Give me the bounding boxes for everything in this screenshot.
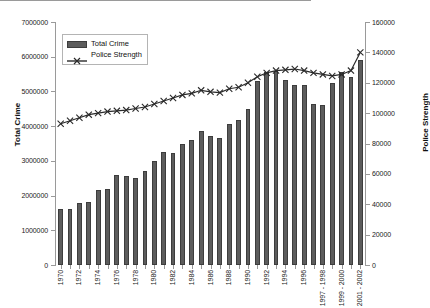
x-marker-icon xyxy=(161,98,167,104)
x-axis-tick-label: 1992 xyxy=(263,270,270,285)
x-axis-tick-label: 1986 xyxy=(207,270,214,285)
x-axis-tick xyxy=(61,265,62,269)
x-axis-tick xyxy=(117,265,118,269)
x-axis-tick xyxy=(164,265,165,269)
right-axis-tick-label: 60000 xyxy=(372,170,391,177)
right-axis-tick-label: 160000 xyxy=(372,19,395,26)
x-axis-tick xyxy=(285,265,286,269)
x-axis-tick xyxy=(126,265,127,269)
x-axis-tick xyxy=(304,265,305,269)
chart-legend: Total Crime Police Strength xyxy=(62,34,148,65)
x-axis-tick xyxy=(229,265,230,269)
bottom-axis-line xyxy=(0,0,311,1)
x-axis-tick xyxy=(276,265,277,269)
x-axis-tick-label: 1976 xyxy=(113,270,120,285)
x-axis-tick xyxy=(342,265,343,269)
x-axis-tick-label: 1999 - 2000 xyxy=(338,270,345,306)
x-axis-tick xyxy=(192,265,193,269)
x-axis-tick xyxy=(145,265,146,269)
right-axis-tick xyxy=(365,174,370,175)
x-axis-tick xyxy=(323,265,324,269)
x-axis-tick-label: 1970 xyxy=(57,270,64,285)
right-axis-tick xyxy=(365,113,370,114)
x-axis-tick xyxy=(201,265,202,269)
x-axis-tick xyxy=(248,265,249,269)
left-axis-tick-label: 2000000 xyxy=(0,192,48,199)
x-marker-icon xyxy=(151,101,157,107)
x-marker-icon xyxy=(245,80,251,86)
x-marker-icon xyxy=(348,68,354,74)
x-axis-tick xyxy=(220,265,221,269)
x-axis-tick xyxy=(314,265,315,269)
x-axis-tick-label: 1988 xyxy=(225,270,232,285)
x-axis-tick-label: 1984 xyxy=(188,270,195,285)
right-axis-tick xyxy=(365,83,370,84)
x-axis-tick-label: 1974 xyxy=(94,270,101,285)
right-axis-tick xyxy=(365,52,370,53)
right-axis-tick-label: 120000 xyxy=(372,79,395,86)
right-axis-tick-label: 140000 xyxy=(372,49,395,56)
right-axis-tick-label: 80000 xyxy=(372,140,391,147)
x-axis-tick xyxy=(239,265,240,269)
left-axis-tick-label: 4000000 xyxy=(0,123,48,130)
x-axis-tick-label: 1990 xyxy=(244,270,251,285)
x-axis-tick-label: 1980 xyxy=(150,270,157,285)
legend-item-total-crime: Total Crime xyxy=(67,39,142,49)
x-axis-tick xyxy=(332,265,333,269)
left-axis-tick-label: 3000000 xyxy=(0,157,48,164)
x-axis-tick-label: 1997 - 1998 xyxy=(319,270,326,306)
x-axis-tick xyxy=(351,265,352,269)
x-marker-icon xyxy=(170,95,176,101)
right-axis-tick xyxy=(365,204,370,205)
x-marker-icon xyxy=(58,121,64,127)
x-axis-tick xyxy=(211,265,212,269)
right-axis-title: Police Strength xyxy=(421,73,430,173)
left-axis-tick-label: 0 xyxy=(0,262,48,269)
x-axis-tick-label: 1994 xyxy=(281,270,288,285)
right-axis-tick-label: 100000 xyxy=(372,110,395,117)
right-axis-tick xyxy=(365,144,370,145)
x-axis-tick xyxy=(295,265,296,269)
legend-label-police-strength: Police Strength xyxy=(91,51,142,59)
x-axis-tick-label: 2001 - 2002 xyxy=(356,270,363,306)
x-axis-tick xyxy=(257,265,258,269)
line-x-marker-icon xyxy=(67,51,87,59)
x-axis-tick xyxy=(154,265,155,269)
right-axis-tick xyxy=(365,22,370,23)
left-axis-tick-label: 1000000 xyxy=(0,227,48,234)
x-axis-tick xyxy=(173,265,174,269)
x-axis-tick xyxy=(98,265,99,269)
x-marker-icon xyxy=(254,74,260,80)
legend-item-police-strength: Police Strength xyxy=(67,50,142,60)
left-axis-tick-label: 5000000 xyxy=(0,88,48,95)
right-axis-tick-label: 40000 xyxy=(372,201,391,208)
x-axis-tick xyxy=(89,265,90,269)
x-axis-tick-label: 1996 xyxy=(300,270,307,285)
x-axis-tick xyxy=(79,265,80,269)
left-axis-tick xyxy=(51,265,56,266)
right-axis-tick xyxy=(365,235,370,236)
x-axis-tick-label: 1972 xyxy=(75,270,82,285)
bar-swatch-icon xyxy=(67,41,87,48)
x-axis-tick xyxy=(136,265,137,269)
x-marker-icon xyxy=(67,118,73,124)
x-marker-icon xyxy=(357,49,363,55)
x-axis-tick xyxy=(360,265,361,269)
x-axis-tick xyxy=(108,265,109,269)
x-axis-tick-label: 1982 xyxy=(169,270,176,285)
right-axis-tick-label: 20000 xyxy=(372,231,391,238)
x-axis-tick xyxy=(267,265,268,269)
right-axis-tick-label: 0 xyxy=(372,262,376,269)
x-axis-tick xyxy=(70,265,71,269)
left-axis-tick-label: 7000000 xyxy=(0,19,48,26)
x-axis-tick xyxy=(182,265,183,269)
left-axis-tick-label: 6000000 xyxy=(0,53,48,60)
legend-label-total-crime: Total Crime xyxy=(91,40,129,48)
x-marker-icon xyxy=(76,115,82,121)
x-axis-tick-label: 1978 xyxy=(132,270,139,285)
right-axis-tick xyxy=(365,265,370,266)
